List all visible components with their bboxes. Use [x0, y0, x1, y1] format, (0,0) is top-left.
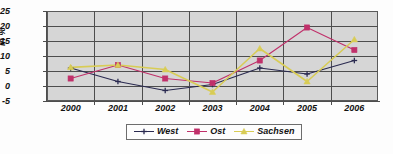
data-point-west-2005	[304, 71, 310, 77]
x-axis-tick-mark	[94, 101, 95, 105]
data-point-ost-2004	[257, 58, 262, 63]
data-point-west-2004	[257, 65, 263, 71]
legend-label: West	[157, 127, 178, 136]
x-axis-tick-mark	[236, 101, 237, 105]
data-point-sachsen-2006	[351, 36, 357, 42]
x-axis-tick-label: 2000	[45, 103, 97, 113]
chart-legend: WestOstSachsen	[126, 124, 302, 140]
data-point-west-2001	[115, 79, 121, 85]
y-axis-tick-label: -5	[0, 97, 10, 106]
x-axis-tick-label: 2003	[187, 103, 239, 113]
data-point-ost-2006	[352, 47, 357, 52]
x-axis-tick-label: 2002	[139, 103, 191, 113]
x-axis-tick-mark	[283, 101, 284, 105]
y-axis-tick-label: 10	[0, 52, 10, 61]
y-axis-title: in %	[0, 27, 7, 46]
data-point-ost-2000	[68, 76, 73, 81]
legend-label: Ost	[210, 127, 225, 136]
triangle-marker-icon	[234, 127, 254, 136]
series-line-ost	[71, 28, 355, 84]
legend-item-west[interactable]: West	[134, 127, 178, 136]
square-marker-icon	[187, 127, 207, 136]
series-layer	[47, 11, 378, 101]
data-point-west-2002	[162, 88, 168, 94]
x-axis-tick-label: 2004	[234, 103, 286, 113]
line-chart: in % 2520151050-5 2000200120022003200420…	[0, 0, 393, 154]
plus-marker-icon	[134, 127, 154, 136]
data-point-ost-2005	[304, 25, 309, 30]
data-point-ost-2002	[163, 76, 168, 81]
legend-item-ost[interactable]: Ost	[187, 127, 225, 136]
y-axis-tick-label: 25	[0, 7, 10, 16]
data-point-ost-2003	[210, 80, 215, 85]
x-axis-tick-label: 2006	[328, 103, 380, 113]
x-axis-tick-mark	[189, 101, 190, 105]
y-axis-tick-label: 5	[0, 67, 10, 76]
x-axis-tick-mark	[331, 101, 332, 105]
x-axis-tick-label: 2005	[281, 103, 333, 113]
data-point-sachsen-2004	[257, 45, 263, 51]
legend-label: Sachsen	[257, 127, 294, 136]
x-axis-tick-mark	[142, 101, 143, 105]
plot-area	[47, 11, 378, 101]
x-axis-tick-label: 2001	[92, 103, 144, 113]
legend-item-sachsen[interactable]: Sachsen	[234, 127, 294, 136]
y-axis-tick-label: 0	[0, 82, 10, 91]
data-point-west-2006	[352, 58, 358, 64]
